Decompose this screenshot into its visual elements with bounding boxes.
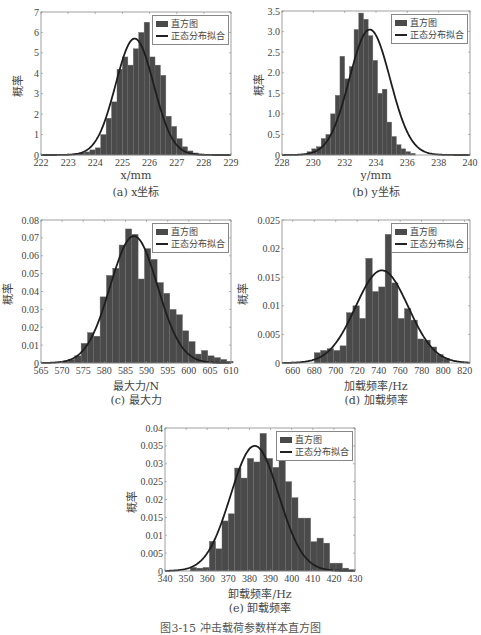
x-tick-label: 236 <box>400 157 415 168</box>
y-axis-label: 概率 <box>250 72 266 96</box>
y-tick-label: 0.01 <box>263 300 281 311</box>
y-tick-label: 3.0 <box>268 26 281 37</box>
histogram-bar <box>144 249 150 363</box>
y-tick-label: 2 <box>34 109 39 120</box>
y-tick-label: 0 <box>34 358 39 369</box>
x-tick-label: 380 <box>242 573 257 584</box>
x-tick-label: 232 <box>337 157 352 168</box>
y-tick-label: 0 <box>275 358 280 369</box>
histogram-swatch-icon <box>280 437 292 443</box>
y-tick-label: 0.06 <box>22 250 40 261</box>
y-tick-label: 0 <box>158 566 163 577</box>
histogram-bar <box>359 13 364 155</box>
histogram-bar <box>254 462 260 571</box>
x-tick-label: 420 <box>326 573 341 584</box>
x-tick-label: 390 <box>263 573 278 584</box>
legend: 直方图正态分布拟合 <box>391 223 468 253</box>
y-tick-label: 0.02 <box>263 243 281 254</box>
x-tick-label: 360 <box>200 573 215 584</box>
legend-fit-label: 正态分布拟合 <box>295 446 349 458</box>
histogram-bar <box>404 309 410 363</box>
histogram-bar <box>125 229 131 363</box>
legend-histogram-label: 直方图 <box>410 226 437 238</box>
histogram-bar <box>112 102 117 155</box>
y-tick-label: 2.0 <box>268 67 281 78</box>
legend: 直方图正态分布拟合 <box>152 223 229 253</box>
x-tick-label: 350 <box>179 573 194 584</box>
legend-fit-label: 正态分布拟合 <box>410 238 464 250</box>
figure-caption: 图3-15 冲击载荷参数样本直方图 <box>0 619 481 635</box>
y-axis-label: 概率 <box>0 281 15 305</box>
histogram-bar <box>304 518 310 571</box>
histogram-bar <box>349 67 354 155</box>
x-tick-label: 780 <box>414 365 429 376</box>
histogram-bar <box>247 458 253 571</box>
x-tick-label: 230 <box>306 157 321 168</box>
histogram-bar <box>228 514 234 571</box>
histogram-bar <box>417 339 423 363</box>
chart-panel-e: 34035036037038039040041042043000.0050.01… <box>165 428 355 571</box>
histogram-bar <box>235 468 241 571</box>
x-tick-label: 410 <box>305 573 320 584</box>
x-tick-label: 820 <box>457 365 472 376</box>
y-tick-label: 0.01 <box>146 530 164 541</box>
y-tick-label: 0.04 <box>146 423 164 434</box>
x-tick-label: 570 <box>55 365 70 376</box>
histogram-bar <box>122 57 127 155</box>
histogram-bar <box>398 318 404 363</box>
y-tick-label: 0.005 <box>141 548 164 559</box>
histogram-bar <box>372 292 378 364</box>
legend-histogram-label: 直方图 <box>171 226 198 238</box>
histogram-bar <box>366 258 372 363</box>
legend-histogram-label: 直方图 <box>171 18 198 30</box>
y-tick-label: 0.08 <box>22 215 40 226</box>
histogram-bar <box>197 568 203 571</box>
histogram-bar <box>406 152 411 155</box>
legend-fit-label: 正态分布拟合 <box>410 29 464 41</box>
histogram-bar <box>382 89 387 155</box>
y-tick-label: 0.025 <box>141 476 164 487</box>
legend: 直方图正态分布拟合 <box>276 431 353 461</box>
histogram-bar <box>334 350 340 363</box>
x-tick-label: 590 <box>139 365 154 376</box>
x-tick-label: 229 <box>224 157 239 168</box>
x-tick-label: 400 <box>284 573 299 584</box>
subfigure-caption: (a) x坐标 <box>41 183 231 199</box>
histogram-bar <box>379 287 385 363</box>
histogram-bar <box>359 318 365 363</box>
histogram-bar <box>90 150 95 155</box>
histogram-bar <box>106 118 111 155</box>
histogram-bar <box>411 320 417 363</box>
histogram-bar <box>241 478 247 571</box>
histogram-bar <box>378 93 383 155</box>
histogram-bar <box>216 549 222 571</box>
y-tick-label: 0.01 <box>22 340 40 351</box>
x-tick-label: 610 <box>224 365 239 376</box>
histogram-bar <box>117 69 122 155</box>
histogram-bar <box>340 346 346 363</box>
histogram-bar <box>401 149 406 155</box>
x-tick-label: 585 <box>118 365 133 376</box>
fit-line-swatch-icon <box>280 451 292 453</box>
y-tick-label: 0.02 <box>146 494 164 505</box>
histogram-bar <box>222 521 228 571</box>
histogram-bar <box>323 543 329 571</box>
y-tick-label: 0.015 <box>258 272 281 283</box>
subfigure-caption: (b) y坐标 <box>282 183 470 199</box>
histogram-bar <box>155 65 160 155</box>
legend: 直方图正态分布拟合 <box>391 14 468 44</box>
x-tick-label: 580 <box>97 365 112 376</box>
histogram-swatch-icon <box>395 20 407 26</box>
y-tick-label: 3.5 <box>268 6 281 17</box>
x-tick-label: 225 <box>115 157 130 168</box>
x-tick-label: 760 <box>393 365 408 376</box>
x-tick-label: 605 <box>202 365 217 376</box>
y-tick-label: 0.03 <box>22 304 40 315</box>
histogram-bar <box>138 279 144 363</box>
y-tick-label: 0.035 <box>141 440 164 451</box>
x-tick-label: 600 <box>181 365 196 376</box>
histogram-bar <box>133 49 138 155</box>
y-tick-label: 3 <box>34 88 39 99</box>
y-tick-label: 4 <box>34 68 39 79</box>
histogram-swatch-icon <box>395 229 407 235</box>
